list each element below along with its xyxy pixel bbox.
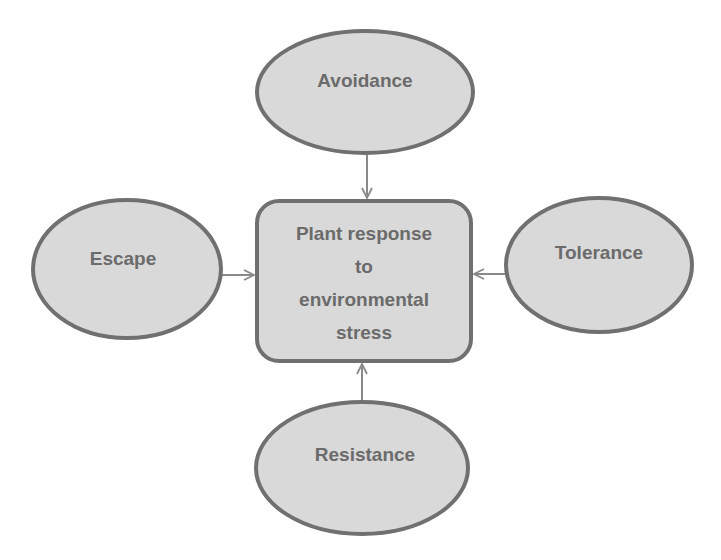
center-node-line-3: environmental <box>299 289 429 310</box>
node-resistance: Resistance <box>256 402 468 534</box>
center-node-line-4: stress <box>336 322 392 343</box>
center-node-line-1: Plant response <box>296 223 432 244</box>
node-escape-label: Escape <box>90 248 157 269</box>
node-tolerance: Tolerance <box>506 198 692 332</box>
center-node-line-2: to <box>355 256 373 277</box>
node-avoidance-ellipse <box>257 31 473 153</box>
center-node: Plant response to environmental stress <box>257 201 471 361</box>
node-escape: Escape <box>33 200 221 338</box>
diagram-canvas: Plant response to environmental stress A… <box>0 0 721 560</box>
node-avoidance-label: Avoidance <box>317 70 412 91</box>
node-avoidance: Avoidance <box>257 31 473 153</box>
node-tolerance-label: Tolerance <box>555 242 643 263</box>
node-tolerance-ellipse <box>506 198 692 332</box>
node-resistance-label: Resistance <box>315 444 415 465</box>
node-resistance-ellipse <box>256 402 468 534</box>
